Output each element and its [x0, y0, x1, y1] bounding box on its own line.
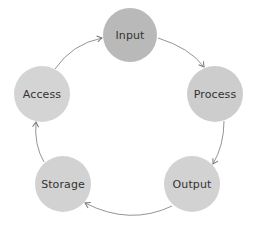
arrow-output-to-storage	[85, 203, 172, 215]
arrow-access-to-input	[55, 38, 102, 69]
node-output: Output	[164, 156, 220, 212]
node-access-label: Access	[23, 88, 61, 101]
node-storage: Storage	[35, 156, 91, 212]
node-process: Process	[187, 66, 243, 122]
node-storage-label: Storage	[41, 178, 85, 191]
arrow-process-to-output	[213, 121, 224, 164]
node-input-label: Input	[116, 29, 145, 42]
node-access: Access	[14, 66, 70, 122]
arrow-input-to-process	[158, 38, 204, 67]
node-output-label: Output	[173, 178, 212, 191]
node-input: Input	[103, 8, 157, 62]
arrow-storage-to-access	[36, 122, 44, 162]
node-process-label: Process	[194, 88, 236, 101]
